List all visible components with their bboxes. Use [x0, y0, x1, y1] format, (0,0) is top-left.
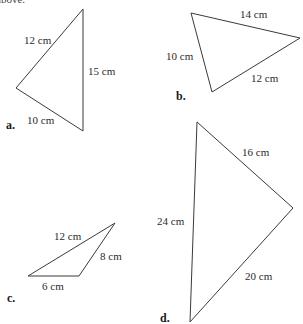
triangle-c-label: c.	[7, 291, 15, 305]
triangle-c-side-1: 12 cm	[54, 230, 82, 242]
triangle-b-side-3: 12 cm	[251, 72, 279, 84]
triangle-d-side-2: 16 cm	[242, 146, 270, 158]
triangle-a-side-1: 12 cm	[24, 34, 52, 46]
triangle-a-side-3: 10 cm	[27, 114, 55, 126]
triangle-a-side-2: 15 cm	[88, 65, 116, 77]
triangle-d-label: d.	[160, 311, 170, 324]
triangle-b-side-2: 10 cm	[166, 50, 194, 62]
triangle-d: 24 cm 16 cm 20 cm d.	[157, 122, 293, 324]
triangle-b: 14 cm 10 cm 12 cm b.	[166, 8, 300, 103]
triangle-a-label: a.	[6, 118, 15, 132]
triangle-d-side-3: 20 cm	[245, 270, 273, 282]
triangle-diagram: above. 12 cm 15 cm 10 cm a. 14 cm 10 cm …	[0, 0, 303, 324]
triangle-b-shape	[191, 13, 300, 92]
triangle-d-side-1: 24 cm	[157, 215, 185, 227]
triangle-b-side-1: 14 cm	[240, 8, 268, 20]
triangle-c: 12 cm 8 cm 6 cm c.	[7, 223, 122, 305]
triangle-c-side-2: 8 cm	[100, 250, 122, 262]
triangle-b-label: b.	[176, 89, 186, 103]
triangle-c-side-3: 6 cm	[42, 280, 64, 292]
triangle-a: 12 cm 15 cm 10 cm a.	[6, 9, 116, 132]
triangle-a-shape	[16, 9, 83, 131]
header-partial-text: above.	[0, 0, 25, 5]
